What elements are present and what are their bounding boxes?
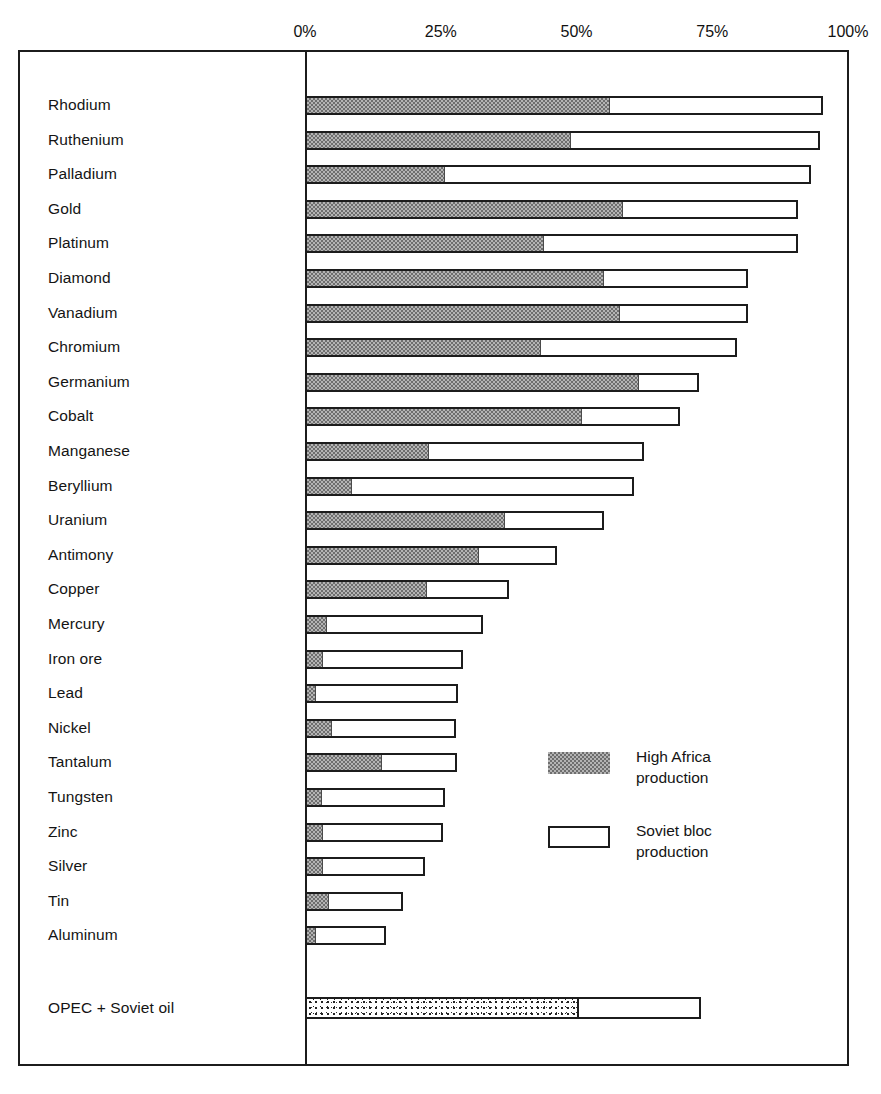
stacked-bar [305, 131, 820, 150]
bar-row-label: Silver [48, 851, 87, 881]
bar-row-label: Rhodium [48, 90, 111, 120]
bar-row: Vanadium [0, 298, 881, 328]
legend-label: Soviet bloc production [636, 820, 712, 862]
bar-segment-africa [307, 479, 352, 494]
stacked-bar [305, 338, 737, 357]
bar-row: Germanium [0, 367, 881, 397]
bar-segment-africa [307, 340, 541, 355]
stacked-bar [305, 373, 699, 392]
bar-row: Rhodium [0, 90, 881, 120]
bar-row-label: Germanium [48, 367, 130, 397]
bar-row: Palladium [0, 159, 881, 189]
stacked-bar [305, 926, 386, 945]
bar-segment-africa [307, 859, 323, 874]
bar-row-label: Tantalum [48, 747, 112, 777]
stacked-bar [305, 269, 748, 288]
bar-segment-africa [307, 825, 323, 840]
legend-swatch-soviet [548, 826, 610, 848]
bar-row-label: Copper [48, 574, 99, 604]
stacked-bar [305, 200, 798, 219]
bar-row-label-opec: OPEC + Soviet oil [48, 993, 174, 1023]
bar-segment-africa [307, 513, 505, 528]
stacked-bar [305, 477, 634, 496]
stacked-bar [305, 234, 798, 253]
bar-row-label: Uranium [48, 505, 107, 535]
bar-row: Antimony [0, 540, 881, 570]
bar-row-label: Chromium [48, 332, 120, 362]
bar-segment-africa [307, 928, 316, 943]
bar-row-label: Mercury [48, 609, 105, 639]
bar-row: Lead [0, 678, 881, 708]
stacked-bar [305, 546, 557, 565]
stacked-bar [305, 580, 509, 599]
bar-row-label: Ruthenium [48, 125, 124, 155]
stacked-bar [305, 684, 458, 703]
bar-row-label: Iron ore [48, 644, 102, 674]
bar-row-label: Beryllium [48, 471, 113, 501]
bar-segment-africa [307, 652, 323, 667]
bar-segment-africa [307, 548, 479, 563]
bar-row: Cobalt [0, 401, 881, 431]
bar-row: Manganese [0, 436, 881, 466]
bar-row-label: Zinc [48, 817, 78, 847]
legend-entry: High Africa production [548, 748, 828, 804]
stacked-bar [305, 823, 443, 842]
legend-entry: Soviet bloc production [548, 822, 828, 878]
stacked-bar [305, 511, 604, 530]
bar-row: Beryllium [0, 471, 881, 501]
bar-row: Diamond [0, 263, 881, 293]
bar-row: Mercury [0, 609, 881, 639]
stacked-bar [305, 442, 644, 461]
bar-segment-africa [307, 444, 429, 459]
bar-segment-opec-oil [307, 999, 579, 1017]
bar-segment-africa [307, 755, 382, 770]
bar-segment-africa [307, 202, 623, 217]
bar-row: Platinum [0, 228, 881, 258]
bar-segment-africa [307, 167, 445, 182]
stacked-bar [305, 753, 457, 772]
stacked-bar-opec [305, 997, 701, 1019]
bar-row-opec: OPEC + Soviet oil [0, 993, 881, 1023]
legend-label: High Africa production [636, 746, 711, 788]
bar-segment-africa [307, 686, 316, 701]
bar-segment-africa [307, 617, 327, 632]
bar-segment-africa [307, 133, 571, 148]
stacked-bar [305, 857, 425, 876]
bar-segment-africa [307, 271, 604, 286]
bar-row-label: Antimony [48, 540, 113, 570]
stacked-bar [305, 304, 748, 323]
bar-row-label: Palladium [48, 159, 117, 189]
stacked-bar [305, 650, 463, 669]
bar-row-label: Tungsten [48, 782, 113, 812]
bar-row: Uranium [0, 505, 881, 535]
bar-row-label: Nickel [48, 713, 91, 743]
bar-row: Chromium [0, 332, 881, 362]
bar-segment-africa [307, 98, 610, 113]
bar-row-label: Cobalt [48, 401, 93, 431]
bar-row-label: Tin [48, 886, 69, 916]
stacked-bar [305, 407, 680, 426]
bar-segment-africa [307, 375, 639, 390]
bar-row-label: Vanadium [48, 298, 117, 328]
bar-row: Tin [0, 886, 881, 916]
bar-segment-africa [307, 721, 332, 736]
bar-row-label: Gold [48, 194, 81, 224]
stacked-bar [305, 719, 456, 738]
bar-row: Copper [0, 574, 881, 604]
bar-chart: 0%25%50%75%100% RhodiumRutheniumPalladiu… [0, 0, 881, 1094]
bar-segment-africa [307, 582, 427, 597]
stacked-bar [305, 892, 403, 911]
stacked-bar [305, 165, 811, 184]
bar-row: Ruthenium [0, 125, 881, 155]
bar-segment-africa [307, 790, 322, 805]
bar-row: Iron ore [0, 644, 881, 674]
bar-row: Gold [0, 194, 881, 224]
bar-row-label: Lead [48, 678, 83, 708]
stacked-bar [305, 788, 445, 807]
bar-row-label: Diamond [48, 263, 111, 293]
bar-row: Aluminum [0, 920, 881, 950]
stacked-bar [305, 615, 483, 634]
bar-segment-africa [307, 236, 544, 251]
bar-row-label: Aluminum [48, 920, 118, 950]
bar-row-label: Platinum [48, 228, 109, 258]
